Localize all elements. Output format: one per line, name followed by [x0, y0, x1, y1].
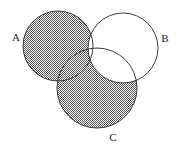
set-label-c: C — [109, 131, 116, 143]
set-label-a: A — [12, 31, 20, 43]
venn-diagram-figure: A B C — [0, 0, 182, 144]
venn-diagram-canvas: A B C — [0, 0, 182, 144]
set-label-b: B — [161, 32, 168, 44]
